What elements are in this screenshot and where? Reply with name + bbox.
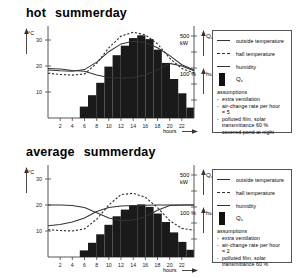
- legend-item-qs: Qs: [217, 74, 288, 85]
- plot-svg-hot: 30 20 10: [26, 24, 202, 136]
- svg-text:2: 2: [59, 262, 62, 268]
- legend-label: hall temperature: [236, 51, 275, 57]
- bar-series-qs-average: [80, 204, 194, 257]
- title-word-2: summerday: [84, 145, 156, 159]
- assumptions-heading-average: assumptions: [217, 228, 288, 234]
- svg-text:10: 10: [106, 262, 112, 268]
- svg-text:16: 16: [142, 123, 148, 129]
- svg-text:14: 14: [130, 262, 136, 268]
- legend-label: humidity: [236, 64, 256, 70]
- legend-item-outside-temperature: outside temperature: [217, 174, 288, 185]
- legend-item-outside-temperature: outside temperature: [217, 35, 288, 46]
- legend-item-hall-temperature: hall temperature: [217, 48, 288, 59]
- legend-line-solid-icon: [217, 201, 231, 210]
- assumption-item: -polluted film, solar: [217, 255, 288, 262]
- legend-label: Qs: [236, 76, 243, 83]
- assumption-item: -polluted film, solar: [217, 116, 288, 123]
- legend-label: outside temperature: [236, 38, 284, 44]
- chart-panel-hot: hotsummerday °C 30 20 10: [0, 0, 298, 139]
- legend-hot: outside temperature hall temperature hum…: [212, 30, 292, 133]
- legend-line-solid-icon: [217, 175, 231, 184]
- assumption-item-cont: = 5: [217, 109, 288, 116]
- plot-svg-average: 30 20 10: [26, 163, 202, 275]
- plot-area-average: 30 20 10: [26, 163, 202, 275]
- y2-mid-label-hot: 100 %: [180, 71, 196, 77]
- title-word-2: summerday: [55, 6, 127, 20]
- x-axis-label-average: hours: [163, 267, 177, 273]
- legend-item-qs: Qs: [217, 213, 288, 224]
- assumption-item: -extra ventilation: [217, 235, 288, 242]
- legend-line-dashed-icon: [217, 188, 231, 197]
- svg-text:12: 12: [118, 123, 124, 129]
- y2-top-unit-hot: kW: [180, 40, 188, 46]
- legend-bar-swatch-icon: [217, 75, 231, 84]
- y2-mid-label-average: 100 %: [180, 210, 196, 216]
- chart-panel-average: averagesummerday °C 30 20 10: [0, 139, 298, 278]
- assumption-item-cont: = 2: [217, 248, 288, 255]
- legend-line-solid-icon: [217, 36, 231, 45]
- svg-text:4: 4: [71, 262, 74, 268]
- assumption-item: -air-change rate per hour: [217, 242, 288, 249]
- legend-item-hall-temperature: hall temperature: [217, 187, 288, 198]
- assumptions-heading-hot: assumptions: [217, 89, 288, 95]
- svg-text:6: 6: [83, 262, 86, 268]
- assumption-item-cont: transmittance 60 %: [217, 122, 288, 129]
- svg-text:16: 16: [142, 262, 148, 268]
- svg-text:18: 18: [155, 123, 161, 129]
- legend-line-dashed-icon: [217, 49, 231, 58]
- x-axis-arrow-icon: [182, 267, 198, 274]
- svg-text:8: 8: [95, 123, 98, 129]
- legend-label: hall temperature: [236, 190, 275, 196]
- y2-top-value-average: 500: [180, 172, 189, 178]
- assumption-item: -covered pond at night: [217, 129, 288, 136]
- title-word-1: average: [26, 145, 75, 159]
- y-ticks-hot: 30 20 10: [36, 37, 51, 95]
- legend-label: outside temperature: [236, 177, 284, 183]
- page-title-hot: hotsummerday: [26, 6, 127, 20]
- svg-text:4: 4: [71, 123, 74, 129]
- svg-text:2: 2: [59, 123, 62, 129]
- assumption-item: -extra ventilation: [217, 96, 288, 103]
- svg-text:8: 8: [95, 262, 98, 268]
- x-axis-label-hot: hours: [163, 128, 177, 134]
- svg-text:10: 10: [36, 228, 42, 234]
- svg-text:20: 20: [36, 63, 42, 69]
- y2-top-unit-average: kW: [180, 179, 188, 185]
- legend-item-humidity: humidity: [217, 200, 288, 211]
- svg-text:10: 10: [106, 123, 112, 129]
- svg-text:20: 20: [36, 202, 42, 208]
- svg-text:10: 10: [36, 89, 42, 95]
- plot-area-hot: 30 20 10: [26, 24, 202, 136]
- svg-text:30: 30: [36, 176, 42, 182]
- legend-average: outside temperature hall temperature hum…: [212, 169, 292, 263]
- svg-text:30: 30: [36, 37, 42, 43]
- title-word-1: hot: [26, 6, 46, 20]
- svg-text:14: 14: [130, 123, 136, 129]
- svg-text:6: 6: [83, 123, 86, 129]
- svg-text:12: 12: [118, 262, 124, 268]
- y2-top-value-hot: 500: [180, 33, 189, 39]
- legend-line-solid-icon: [217, 62, 231, 71]
- assumption-item: -air-change rate per hour: [217, 103, 288, 110]
- assumption-item-cont: transmittance 60 %: [217, 261, 288, 268]
- legend-bar-swatch-icon: [217, 214, 231, 223]
- svg-text:18: 18: [155, 262, 161, 268]
- x-axis-arrow-icon: [182, 128, 198, 135]
- legend-item-humidity: humidity: [217, 61, 288, 72]
- legend-label: humidity: [236, 203, 256, 209]
- page-title-average: averagesummerday: [26, 145, 156, 159]
- legend-label: Qs: [236, 215, 243, 222]
